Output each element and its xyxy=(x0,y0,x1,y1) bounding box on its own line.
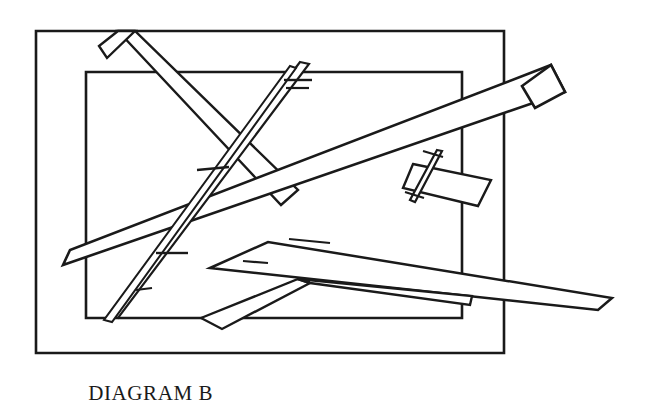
diagram-figure: DIAGRAM B xyxy=(0,0,663,407)
diagram-caption-text: DIAGRAM B xyxy=(88,381,213,406)
figure-background xyxy=(0,0,663,407)
diagram-canvas xyxy=(0,0,663,407)
diagram-caption: DIAGRAM B xyxy=(0,356,663,407)
